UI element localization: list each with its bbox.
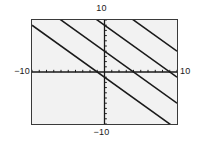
chart-figure: 10 −10 10 −10	[0, 0, 203, 145]
x-axis-max-label: 10	[180, 66, 202, 76]
y-axis-max-label: 10	[0, 3, 203, 13]
x-axis-min-label: −10	[4, 66, 30, 76]
plot-canvas	[32, 20, 177, 124]
y-axis-min-label: −10	[0, 127, 203, 137]
plot-area	[31, 19, 178, 125]
